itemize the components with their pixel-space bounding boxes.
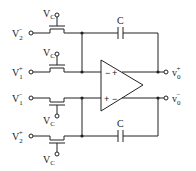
output-v0-minus: v0− — [164, 91, 181, 107]
input-terminal — [29, 70, 33, 74]
junction-dot — [156, 70, 159, 73]
input-row-v1-plus: V1+ VC — [12, 47, 101, 81]
capacitor-label: C — [117, 15, 124, 26]
circuit-diagram: V2− VC V1+ VC — [0, 0, 196, 171]
gate-label-vc: VC — [43, 154, 55, 167]
mosfet-transistor — [49, 98, 65, 118]
output-terminal — [164, 70, 168, 74]
gate-label-vc: VC — [43, 115, 55, 128]
input-row-v2-plus: V2+ VC — [12, 129, 118, 167]
capacitor-label: C — [117, 118, 124, 129]
input-label-v1-plus: V1+ — [12, 65, 23, 81]
capacitor-bottom: C — [117, 98, 158, 142]
input-label-v2-plus: V2+ — [12, 129, 23, 145]
junction-dot — [156, 96, 159, 99]
opamp-noninverting-input-sign: + — [104, 94, 109, 104]
input-label-v1-minus: V1− — [12, 91, 23, 107]
input-row-v2-minus: V2− VC — [12, 8, 118, 42]
capacitor-top: C — [117, 15, 158, 72]
mosfet-transistor — [49, 136, 65, 156]
gate-terminal — [55, 13, 59, 17]
input-terminal — [29, 31, 33, 35]
opamp-noninverting-output-sign: + — [112, 68, 117, 78]
input-terminal — [29, 134, 33, 138]
output-label-v0-plus: v0+ — [172, 65, 181, 81]
opamp-inverting-input-sign: − — [105, 68, 110, 78]
fully-differential-opamp: − + + − — [101, 60, 164, 111]
gate-label-vc: VC — [43, 8, 55, 21]
gate-terminal — [55, 152, 59, 156]
input-row-v1-minus: V1− VC — [12, 91, 101, 128]
gate-terminal — [55, 52, 59, 56]
opamp-inverting-output-sign: − — [112, 94, 117, 104]
output-label-v0-minus: v0− — [172, 91, 181, 107]
output-terminal — [164, 96, 168, 100]
output-v0-plus: v0+ — [164, 65, 181, 81]
input-terminal — [29, 96, 33, 100]
gate-terminal — [55, 114, 59, 118]
input-label-v2-minus: V2− — [12, 26, 23, 42]
gate-label-vc: VC — [43, 47, 55, 60]
